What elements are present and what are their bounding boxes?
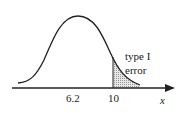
axis-arrow-icon [165, 84, 175, 92]
diagram: 6.2 10 x type I error [0, 0, 179, 113]
mean-label: 6.2 [66, 92, 80, 104]
critical-value-label: 10 [108, 92, 120, 104]
region-label-line2: error [125, 64, 147, 76]
axis-label: x [159, 94, 165, 106]
region-label-line1: type I [125, 50, 151, 62]
